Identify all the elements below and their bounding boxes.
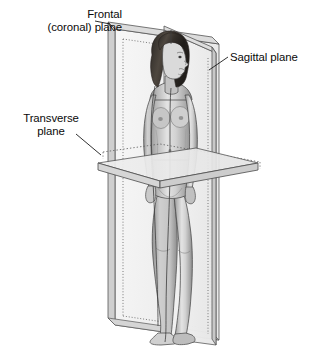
label-frontal-line2: (coronal) plane: [48, 21, 122, 33]
label-transverse-line2: plane: [37, 125, 64, 137]
eye: [178, 56, 181, 58]
sagittal-plane-right-edge: [212, 47, 216, 345]
left-hand: [146, 186, 156, 203]
left-foot: [150, 333, 176, 345]
label-frontal-line1: Frontal: [87, 8, 122, 20]
label-transverse-line1: Transverse: [23, 112, 79, 124]
right-hand: [185, 187, 195, 204]
label-transverse-plane: Transverseplane: [8, 112, 94, 139]
anatomical-planes-diagram: Frontal(coronal) plane Sagittal plane Tr…: [0, 0, 317, 351]
right-nipple: [179, 116, 184, 120]
label-sagittal-plane: Sagittal plane: [230, 51, 298, 64]
right-foot: [173, 333, 195, 345]
left-nipple: [158, 117, 163, 121]
label-frontal-plane: Frontal(coronal) plane: [14, 8, 122, 35]
